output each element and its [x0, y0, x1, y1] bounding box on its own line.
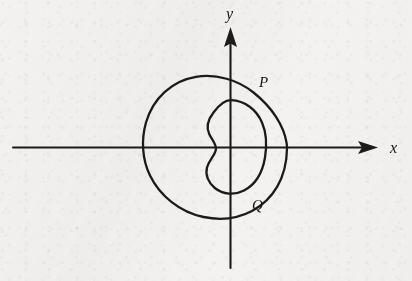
figure-vector-layer [0, 0, 412, 281]
x-axis-label: x [390, 140, 397, 156]
x-axis-group [13, 141, 378, 154]
point-label-p: P [259, 75, 268, 90]
y-axis-label: y [226, 6, 233, 22]
point-label-q: Q [252, 198, 263, 213]
math-figure-canvas: y x P Q [0, 0, 412, 281]
